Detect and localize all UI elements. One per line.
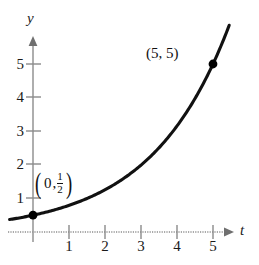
- x-tick-label-1: 1: [60, 238, 78, 255]
- open-paren: (: [35, 168, 41, 198]
- y-axis-label: y: [27, 10, 34, 27]
- point-marker-0-half: [29, 211, 38, 220]
- y-tick-label-5: 5: [8, 56, 24, 73]
- x-tick-label-4: 4: [168, 238, 186, 255]
- y-axis-arrow: [29, 36, 38, 46]
- annotation-point-5-5: (5, 5): [146, 45, 179, 62]
- annotation-point-0-half: ( 0 , 1 2 ): [33, 168, 74, 198]
- y-tick-label-1: 1: [8, 190, 24, 207]
- fraction-numerator: 1: [57, 171, 63, 183]
- point-marker-5-5: [209, 60, 218, 69]
- y-tick-label-3: 3: [8, 123, 24, 140]
- x-tick-label-2: 2: [96, 238, 114, 255]
- x-axis-arrow: [224, 228, 234, 237]
- annotation-x-value: 0: [44, 175, 52, 192]
- x-tick-label-3: 3: [132, 238, 150, 255]
- close-paren: ): [66, 168, 72, 198]
- fraction-one-half: 1 2: [57, 171, 63, 195]
- y-tick-label-4: 4: [8, 89, 24, 106]
- x-tick-label-5: 5: [204, 238, 222, 255]
- annotation-comma: ,: [53, 175, 57, 192]
- fraction-denominator: 2: [57, 183, 63, 196]
- graph-figure: y t 1 2 3 4 5 1 2 3 4 5 (5, 5) ( 0 , 1 2…: [0, 0, 259, 265]
- x-axis-label: t: [240, 222, 244, 239]
- plot-canvas: [0, 0, 259, 265]
- y-tick-label-2: 2: [8, 156, 24, 173]
